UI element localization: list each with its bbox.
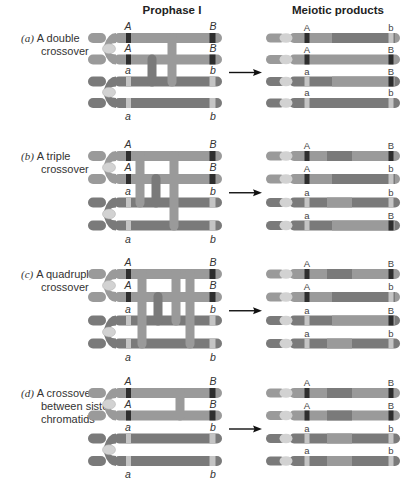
allele-band-b-locus bbox=[210, 316, 216, 326]
centromere bbox=[103, 445, 116, 455]
product-chromatid: AB bbox=[266, 140, 400, 161]
product-chromatid: ab bbox=[266, 445, 400, 466]
crossover-bridge bbox=[136, 151, 145, 208]
product-chromatid: ab bbox=[266, 423, 400, 444]
allele-label-b-locus: B bbox=[209, 20, 216, 32]
allele-band-b-locus bbox=[389, 292, 394, 302]
panel-label: (b)A triple bbox=[21, 150, 70, 163]
allele-band-a-locus bbox=[305, 151, 310, 161]
crossover-bridge bbox=[176, 388, 185, 421]
allele-band-b-locus bbox=[210, 269, 216, 279]
centromere bbox=[280, 151, 293, 161]
product-chromatid: Ab bbox=[266, 22, 400, 43]
product-chromatid: AB bbox=[266, 400, 400, 421]
allele-band-a-locus bbox=[305, 411, 310, 421]
product-chromatid: Ab bbox=[266, 163, 400, 184]
panel-letter: (b) bbox=[21, 150, 34, 163]
panel-label-line: between sister bbox=[41, 400, 112, 412]
allele-band-a-locus bbox=[126, 388, 131, 398]
chromatid-short-arm bbox=[88, 221, 106, 231]
allele-band-a-locus bbox=[305, 98, 310, 108]
centromere bbox=[103, 44, 116, 54]
allele-band-b-locus bbox=[389, 77, 394, 87]
centromere bbox=[280, 98, 293, 108]
product-exchanged-segment bbox=[327, 388, 352, 398]
chromatid-short-arm bbox=[88, 388, 106, 398]
centromere bbox=[280, 434, 293, 444]
crossover-bridge bbox=[148, 55, 157, 87]
allele-band-b-locus bbox=[210, 434, 216, 444]
allele-band-a-locus bbox=[126, 221, 131, 231]
allele-label-a-locus: A bbox=[123, 375, 131, 387]
allele-band-a-locus bbox=[126, 98, 131, 108]
allele-band-a-locus bbox=[305, 55, 310, 65]
allele-label-b-locus: b bbox=[210, 110, 216, 122]
chromatid-short-arm bbox=[88, 411, 106, 421]
allele-band-a-locus bbox=[126, 174, 131, 184]
allele-band-b-locus bbox=[389, 411, 394, 421]
product-chromatid: aB bbox=[266, 66, 400, 87]
allele-band-a-locus bbox=[305, 339, 310, 349]
crossover-bridge bbox=[154, 292, 163, 326]
product-chromatid: aB bbox=[266, 305, 400, 326]
prophase-tetrad: ABABabab bbox=[88, 256, 222, 363]
centromere bbox=[280, 316, 293, 326]
allele-label-b-locus: B bbox=[388, 44, 394, 55]
allele-label-b-locus: b bbox=[388, 22, 393, 33]
chromatid-short-arm bbox=[88, 316, 106, 326]
product-exchanged-segment bbox=[327, 411, 352, 421]
allele-band-b-locus bbox=[389, 316, 394, 326]
products-header: Meiotic products bbox=[292, 4, 384, 16]
panel-a: (a)A doublecrossoverABABababAbABaBab bbox=[21, 20, 400, 122]
allele-band-b-locus bbox=[210, 151, 216, 161]
allele-label-b-locus: B bbox=[209, 398, 216, 410]
allele-label-b-locus: B bbox=[388, 400, 394, 411]
allele-band-a-locus bbox=[126, 456, 131, 466]
allele-label-b-locus: b bbox=[210, 185, 216, 197]
allele-band-b-locus bbox=[210, 98, 216, 108]
chromatid-short-arm bbox=[88, 98, 106, 108]
allele-band-a-locus bbox=[305, 456, 310, 466]
allele-label-b-locus: b bbox=[210, 64, 216, 76]
centromere bbox=[103, 281, 116, 291]
crossover-bridge bbox=[170, 151, 179, 231]
allele-band-a-locus bbox=[305, 198, 310, 208]
allele-label-a-locus: A bbox=[304, 281, 311, 292]
panel-label-line: crossover bbox=[41, 281, 89, 293]
allele-label-a-locus: a bbox=[304, 328, 310, 339]
allele-label-b-locus: B bbox=[209, 279, 216, 291]
allele-label-a-locus: a bbox=[125, 233, 131, 245]
product-exchanged-segment bbox=[332, 292, 395, 302]
allele-label-b-locus: b bbox=[388, 163, 393, 174]
allele-band-a-locus bbox=[126, 411, 131, 421]
product-exchanged-segment bbox=[327, 456, 352, 466]
allele-band-a-locus bbox=[305, 316, 310, 326]
allele-band-a-locus bbox=[305, 292, 310, 302]
centromere bbox=[280, 269, 293, 279]
panel-label-line: A triple bbox=[37, 150, 71, 162]
allele-label-a-locus: a bbox=[304, 210, 310, 221]
allele-band-a-locus bbox=[126, 339, 131, 349]
meiotic-products: ABABabab bbox=[266, 377, 400, 466]
panel-c: (c)A quadruplecrossoverABABababABAbaBab bbox=[21, 256, 400, 363]
allele-band-a-locus bbox=[305, 221, 310, 231]
allele-label-b-locus: B bbox=[388, 377, 394, 388]
allele-band-b-locus bbox=[389, 339, 394, 349]
allele-label-b-locus: B bbox=[388, 258, 394, 269]
panel-label-line: A crossover bbox=[37, 387, 95, 399]
panel-label: (a)A double bbox=[21, 32, 80, 45]
allele-label-b-locus: B bbox=[209, 256, 216, 268]
chromatid-short-arm bbox=[88, 456, 106, 466]
allele-label-a-locus: A bbox=[304, 22, 311, 33]
allele-label-b-locus: B bbox=[209, 42, 216, 54]
product-exchanged-segment bbox=[332, 33, 395, 43]
product-chromatid: Ab bbox=[266, 281, 400, 302]
panels: (a)A doublecrossoverABABababAbABaBab(b)A… bbox=[21, 20, 400, 480]
crossover-bridge bbox=[138, 269, 147, 349]
allele-label-a-locus: a bbox=[125, 110, 131, 122]
allele-label-b-locus: b bbox=[210, 421, 216, 433]
allele-label-a-locus: a bbox=[125, 185, 131, 197]
allele-band-a-locus bbox=[126, 316, 131, 326]
allele-band-a-locus bbox=[305, 77, 310, 87]
panel-letter: (a) bbox=[21, 32, 34, 45]
